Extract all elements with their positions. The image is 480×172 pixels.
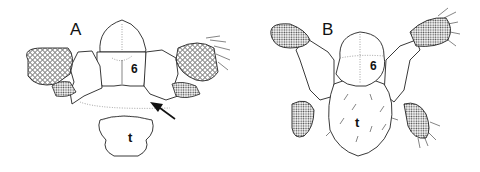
- panel-b: B: [271, 8, 460, 156]
- panel-b-left-upper-pad: [271, 24, 310, 48]
- panel-b-label: B: [322, 20, 333, 39]
- panel-a-right-small-pad: [172, 82, 200, 97]
- panel-a-tergite: [99, 116, 153, 156]
- panel-a-left-small-pad: [52, 82, 76, 97]
- panel-a-right-plate: [144, 50, 178, 100]
- panel-a-segment-label: 6: [131, 62, 138, 76]
- panel-a-tergite-label: t: [128, 130, 133, 145]
- panel-a-left-pad: [27, 48, 73, 85]
- figure-canvas: A 6 t: [0, 0, 480, 172]
- panel-a-segment-6: [97, 52, 146, 86]
- panel-a-right-pad: [176, 43, 218, 81]
- panel-b-tergite-label: t: [355, 115, 360, 130]
- panel-a-dome: [100, 20, 146, 52]
- panel-b-right-arm: [384, 40, 420, 102]
- panel-b-left-lower-pad: [292, 101, 314, 137]
- panel-b-right-upper-pad: [410, 18, 451, 47]
- panel-b-right-lower-pad: [404, 103, 429, 138]
- panel-b-segment-label: 6: [370, 59, 377, 73]
- arrow-icon: [150, 102, 175, 119]
- panel-b-left-arm: [296, 38, 334, 100]
- panel-a: A 6 t: [27, 20, 230, 156]
- panel-a-label: A: [70, 20, 82, 39]
- panel-b-tergite: [329, 78, 392, 156]
